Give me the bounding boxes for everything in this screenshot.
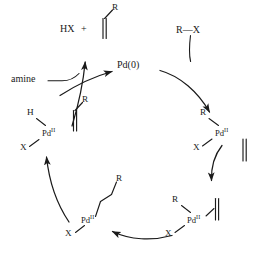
pd-text: Pd: [81, 215, 90, 225]
free-alkene-bonds: [243, 139, 246, 161]
oxidative-addition-r-label: R: [200, 108, 206, 117]
product-hx-label: HX: [60, 24, 74, 34]
product-alkene-bonds: [103, 10, 113, 39]
rx-feed-line: [189, 36, 190, 62]
arrow-oxidative-addition: [160, 71, 210, 113]
amine-feed-line: [48, 74, 79, 81]
hydride-complex-x-label: X: [20, 143, 27, 152]
amine-label: amine: [11, 74, 35, 84]
insertion-product-r-label: R: [116, 174, 122, 183]
insertion-product-bonds: [76, 182, 117, 233]
oxidation-state-text: II: [224, 127, 228, 133]
oxidative-addition-x-label: X: [193, 143, 200, 152]
arrow-alkene-coordination: [211, 146, 222, 181]
alkene-complex-metal-label: PdII: [187, 214, 200, 224]
oxidation-state-text: II: [51, 127, 55, 133]
organohalide-label: R—X: [176, 25, 200, 35]
arrow-migratory-insertion: [113, 232, 173, 239]
pd-text: Pd: [42, 128, 51, 138]
hydride-complex-h-label: H: [27, 108, 34, 117]
oxidative-addition-metal-label: PdII: [215, 127, 228, 137]
insertion-product-x-label: X: [65, 229, 72, 238]
hydride-complex-metal-label: PdII: [42, 127, 55, 137]
insertion-product-metal-label: PdII: [81, 214, 94, 224]
heck-catalytic-cycle-diagram: HX + R Pd(0) R—X amine H X PdII R R X Pd…: [0, 0, 267, 260]
pd0-center-label: Pd(0): [117, 60, 139, 70]
pd-text: Pd: [215, 128, 224, 138]
pd-text: Pd: [187, 215, 196, 225]
alkene-complex-x-label: X: [165, 229, 172, 238]
alkene-complex-r-label: R: [172, 195, 178, 204]
plus-sign: +: [81, 24, 87, 34]
oxidation-state-text: II: [196, 214, 200, 220]
arrow-beta-hydride-elimination: [47, 157, 70, 222]
hydride-complex-r-label: R: [82, 95, 88, 104]
oxidation-state-text: II: [90, 214, 94, 220]
product-r-label: R: [112, 3, 118, 12]
arrow-to-pd0: [60, 72, 112, 96]
hydride-complex-bonds: [30, 103, 83, 147]
